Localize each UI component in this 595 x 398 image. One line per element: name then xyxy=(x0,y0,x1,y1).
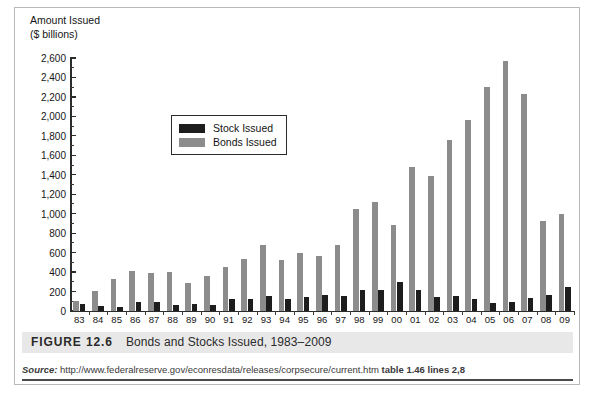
bar-stock-issued xyxy=(266,296,272,311)
bar-stock-issued xyxy=(378,290,384,311)
bar-group xyxy=(372,58,384,311)
x-axis-tick-label: 87 xyxy=(145,314,164,325)
figure-caption: FIGURE 12.6Bonds and Stocks Issued, 1983… xyxy=(31,335,332,349)
bar-stock-issued xyxy=(528,298,534,311)
bar-stock-issued xyxy=(304,297,310,311)
bar-stock-issued xyxy=(397,282,403,311)
bar-stock-issued xyxy=(229,299,235,311)
y-axis-tick-label: 2,400 xyxy=(41,72,66,83)
legend-label-stock: Stock Issued xyxy=(213,122,273,134)
legend-swatch-stock-icon xyxy=(179,124,205,133)
bar-bonds-issued xyxy=(167,272,173,311)
y-axis-tick-label: 600 xyxy=(49,247,66,258)
bar-bonds-issued xyxy=(316,256,322,311)
x-axis-tick-label: 04 xyxy=(462,314,481,325)
x-axis-tick-label: 05 xyxy=(481,314,500,325)
source-divider xyxy=(22,379,573,381)
bar-bonds-issued xyxy=(335,245,341,311)
x-axis-tick-label: 97 xyxy=(331,314,350,325)
x-axis-tick-label: 95 xyxy=(294,314,313,325)
bar-bonds-issued xyxy=(372,202,378,311)
bar-stock-issued xyxy=(341,296,347,311)
bar-stock-issued xyxy=(285,299,291,311)
bar-group xyxy=(465,58,477,311)
bar-group xyxy=(409,58,421,311)
legend-item-stock: Stock Issued xyxy=(179,121,277,135)
bar-bonds-issued xyxy=(503,61,509,311)
y-axis-tick-label: 1,000 xyxy=(41,208,66,219)
source-line: Source: http://www.federalreserve.gov/ec… xyxy=(22,364,465,375)
x-axis-tick-label: 84 xyxy=(89,314,108,325)
bar-group xyxy=(391,58,403,311)
x-axis-tick-label: 09 xyxy=(555,314,574,325)
bar-stock-issued xyxy=(210,305,216,311)
x-axis-tick-label: 91 xyxy=(219,314,238,325)
bar-bonds-issued xyxy=(353,209,359,311)
y-axis-tick-label: 1,400 xyxy=(41,169,66,180)
bar-group xyxy=(428,58,440,311)
bar-stock-issued xyxy=(80,304,86,311)
bar-group xyxy=(559,58,571,311)
bar-stock-issued xyxy=(565,287,571,311)
bar-stock-issued xyxy=(192,304,198,311)
bar-group xyxy=(540,58,552,311)
bar-stock-issued xyxy=(117,307,123,311)
x-axis-tick-label: 06 xyxy=(499,314,518,325)
y-axis-tick-label: 2,000 xyxy=(41,111,66,122)
bar-stock-issued xyxy=(490,303,496,311)
bar-bonds-issued xyxy=(540,221,546,311)
x-axis-tick-label: 90 xyxy=(201,314,220,325)
bar-stock-issued xyxy=(360,290,366,311)
x-axis-tick-label: 96 xyxy=(313,314,332,325)
bar-stock-issued xyxy=(434,297,440,311)
bar-stock-issued xyxy=(416,290,422,311)
source-table-reference: table 1.46 lines 2,8 xyxy=(382,364,465,375)
bar-stock-issued xyxy=(472,299,478,311)
bar-group xyxy=(185,58,197,311)
bar-stock-issued xyxy=(453,296,459,311)
bar-group xyxy=(316,58,328,311)
bar-bonds-issued xyxy=(129,271,135,311)
y-axis-tick-label: 1,600 xyxy=(41,150,66,161)
figure-title: Bonds and Stocks Issued, 1983–2009 xyxy=(126,335,332,349)
x-axis-tick-label: 08 xyxy=(537,314,556,325)
bar-bonds-issued xyxy=(428,176,434,311)
source-url[interactable]: http://www.federalreserve.gov/econresdat… xyxy=(60,364,379,375)
x-axis-tick-label: 01 xyxy=(406,314,425,325)
bar-group xyxy=(167,58,179,311)
bar-bonds-issued xyxy=(111,279,117,311)
bar-stock-issued xyxy=(546,295,552,311)
x-axis-tick-label: 89 xyxy=(182,314,201,325)
x-axis-tick-label: 03 xyxy=(443,314,462,325)
x-axis-tick-label: 94 xyxy=(275,314,294,325)
bar-stock-issued xyxy=(509,302,515,311)
y-axis-tick-label: 0 xyxy=(60,306,66,317)
x-axis-tick-label: 02 xyxy=(425,314,444,325)
bar-group xyxy=(447,58,459,311)
bar-bonds-issued xyxy=(409,167,415,311)
bar-stock-issued xyxy=(322,295,328,311)
bar-group xyxy=(279,58,291,311)
bar-group xyxy=(353,58,365,311)
chart-legend: Stock Issued Bonds Issued xyxy=(171,115,287,155)
bar-bonds-issued xyxy=(391,225,397,311)
bar-group xyxy=(503,58,515,311)
x-axis-tick-label: 92 xyxy=(238,314,257,325)
bar-bonds-issued xyxy=(92,291,98,311)
chart-plot-area xyxy=(70,58,574,311)
x-axis-tick-label: 83 xyxy=(70,314,89,325)
bar-group xyxy=(223,58,235,311)
x-axis-tick-label: 00 xyxy=(387,314,406,325)
bar-group xyxy=(73,58,85,311)
bar-stock-issued xyxy=(154,302,160,311)
y-axis-tick-label: 1,200 xyxy=(41,189,66,200)
y-axis-tick-label: 200 xyxy=(49,286,66,297)
y-axis-tick-label: 2,600 xyxy=(41,53,66,64)
bar-bonds-issued xyxy=(559,214,565,311)
bar-bonds-issued xyxy=(279,260,285,311)
bar-bonds-issued xyxy=(447,140,453,311)
x-axis-tick-label: 86 xyxy=(126,314,145,325)
bar-group xyxy=(260,58,272,311)
source-label: Source: xyxy=(22,364,57,375)
bar-stock-issued xyxy=(173,305,179,311)
